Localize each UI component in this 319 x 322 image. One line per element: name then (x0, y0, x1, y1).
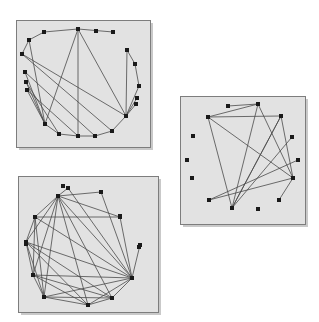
graph-node (118, 214, 122, 218)
graph-node (135, 96, 139, 100)
graph-node (31, 273, 35, 277)
graph-node (43, 122, 47, 126)
panel-bottom-left-background (18, 176, 158, 312)
graph-node (207, 198, 211, 202)
graph-node (57, 132, 61, 136)
panel-top-left (16, 20, 153, 150)
graph-node (93, 134, 97, 138)
graph-node (20, 52, 24, 56)
graph-node (76, 27, 80, 31)
graph-node (124, 114, 128, 118)
graph-node (277, 198, 281, 202)
graph-node (61, 184, 65, 188)
graph-node (56, 194, 60, 198)
graph-node (185, 158, 189, 162)
graph-node (130, 276, 134, 280)
graph-node (296, 158, 300, 162)
graph-node (24, 242, 28, 246)
graph-node (256, 207, 260, 211)
graph-node (190, 176, 194, 180)
graph-node (24, 80, 28, 84)
graph-node (66, 186, 70, 190)
graph-node (42, 295, 46, 299)
graph-node (23, 70, 27, 74)
graph-node (137, 245, 141, 249)
graph-node (230, 206, 234, 210)
graph-node (125, 48, 129, 52)
panel-top-left-background (16, 20, 150, 147)
graph-node (291, 176, 295, 180)
graph-node (134, 102, 138, 106)
graph-node (76, 134, 80, 138)
graph-node (191, 134, 195, 138)
graph-node (33, 215, 37, 219)
graph-node (226, 104, 230, 108)
graph-node (99, 190, 103, 194)
graph-node (133, 62, 137, 66)
graph-node (27, 38, 31, 42)
graph-node (110, 296, 114, 300)
graph-node (111, 30, 115, 34)
graph-node (110, 129, 114, 133)
graph-node (206, 115, 210, 119)
graph-node (279, 114, 283, 118)
graph-node (94, 29, 98, 33)
graph-node (256, 102, 260, 106)
graph-node (25, 88, 29, 92)
panel-right (180, 96, 308, 227)
graph-node (86, 303, 90, 307)
graph-node (137, 84, 141, 88)
panel-right-background (180, 96, 305, 224)
graph-figure (0, 0, 319, 322)
graph-node (42, 30, 46, 34)
graph-node (290, 135, 294, 139)
panel-bottom-left (18, 176, 161, 315)
